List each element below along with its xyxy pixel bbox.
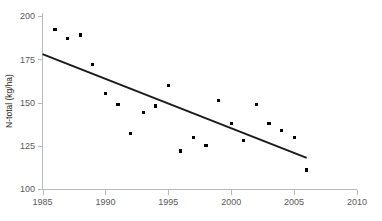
data-point <box>280 129 283 132</box>
data-point <box>255 103 258 106</box>
data-point <box>192 136 195 139</box>
data-point <box>217 99 220 102</box>
y-tick-label: 200 <box>20 11 35 21</box>
x-tick-label: 2010 <box>347 197 367 207</box>
chart-container: 100125150175200 198519901995200020052010… <box>0 0 382 221</box>
trend-line-group <box>43 54 307 158</box>
y-axis-title: N-total (kg/ha) <box>4 74 14 128</box>
y-tick-label: 150 <box>20 98 35 108</box>
data-point <box>167 84 170 87</box>
x-tick-label: 1990 <box>95 197 115 207</box>
y-tick-label: 125 <box>20 141 35 151</box>
data-point <box>116 103 119 106</box>
data-point <box>230 122 233 125</box>
data-point <box>79 33 82 36</box>
data-point <box>142 111 145 114</box>
data-point <box>53 28 56 31</box>
data-point <box>305 168 308 171</box>
data-point <box>91 63 94 66</box>
scatter-plot: 100125150175200 198519901995200020052010… <box>0 0 382 221</box>
data-point <box>242 139 245 142</box>
data-point <box>267 122 270 125</box>
data-points-group <box>53 28 308 171</box>
y-tick-label: 100 <box>20 184 35 194</box>
x-tick-label: 2000 <box>221 197 241 207</box>
data-point <box>129 132 132 135</box>
x-tick-label: 1995 <box>158 197 178 207</box>
data-point <box>179 149 182 152</box>
y-tick-label: 175 <box>20 55 35 65</box>
x-tick-label: 2005 <box>284 197 304 207</box>
trend-line <box>43 54 307 158</box>
data-point <box>154 104 157 107</box>
x-tick-label: 1985 <box>32 197 52 207</box>
data-point <box>66 37 69 40</box>
y-axis-ticks: 100125150175200 <box>20 11 43 194</box>
x-axis-ticks: 198519901995200020052010 <box>32 190 367 208</box>
data-point <box>204 144 207 147</box>
data-point <box>104 92 107 95</box>
data-point <box>293 136 296 139</box>
